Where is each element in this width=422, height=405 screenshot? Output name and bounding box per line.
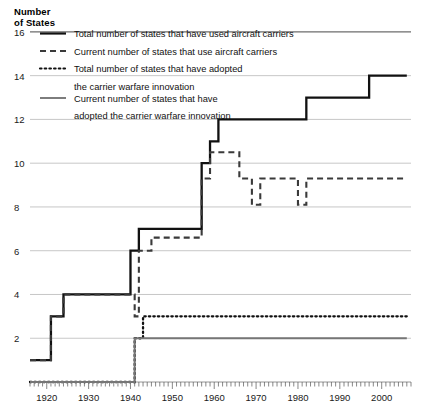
- x-tick-label-1940: 1940: [120, 392, 141, 403]
- legend: Total number of states that have used ai…: [40, 29, 294, 121]
- legend-label-5: adopted the carrier warfare innovation: [74, 111, 231, 121]
- series-line-2: [30, 316, 407, 382]
- y-tick-label-group: 246810121416: [14, 27, 25, 344]
- series-line-3: [30, 338, 407, 382]
- y-tick-label-16: 16: [14, 27, 25, 38]
- legend-label-2: Total number of states that have adopted: [74, 64, 243, 74]
- series-group: [30, 76, 407, 382]
- y-tick-label-2: 2: [14, 333, 19, 344]
- legend-label-0: Total number of states that have used ai…: [74, 29, 294, 39]
- x-tick-label-1980: 1980: [287, 392, 308, 403]
- x-tick-group: [30, 382, 411, 389]
- x-tick-label-2000: 2000: [371, 392, 392, 403]
- x-tick-label-1930: 1930: [78, 392, 99, 403]
- legend-label-3: the carrier warfare innovation: [74, 82, 194, 92]
- x-tick-label-1920: 1920: [36, 392, 57, 403]
- chart-canvas: 246810121416 192019301940195019601970198…: [0, 0, 422, 405]
- y-tick-label-10: 10: [14, 158, 25, 169]
- series-line-1: [30, 152, 407, 360]
- y-tick-label-4: 4: [14, 289, 19, 300]
- x-tick-label-1970: 1970: [246, 392, 267, 403]
- x-tick-label-1950: 1950: [162, 392, 183, 403]
- x-tick-label-group: 192019301940195019601970198019902000: [36, 392, 392, 403]
- legend-label-4: Current number of states that have: [74, 94, 218, 104]
- y-tick-label-14: 14: [14, 71, 25, 82]
- y-tick-label-12: 12: [14, 114, 25, 125]
- chart-figure: Number of States 246810121416 1920193019…: [0, 0, 422, 405]
- y-tick-label-8: 8: [14, 202, 19, 213]
- x-tick-label-1990: 1990: [329, 392, 350, 403]
- y-tick-label-6: 6: [14, 246, 19, 257]
- legend-label-1: Current number of states that use aircra…: [74, 47, 277, 57]
- x-tick-label-1960: 1960: [204, 392, 225, 403]
